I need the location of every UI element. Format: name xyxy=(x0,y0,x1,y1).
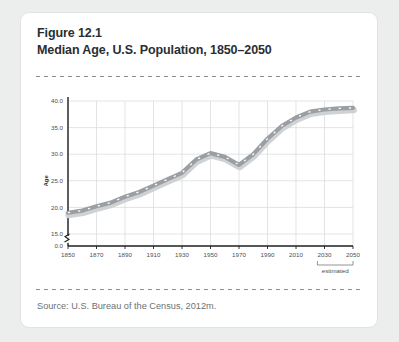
x-tick-label: 1970 xyxy=(232,251,246,258)
source-note: Source: U.S. Bureau of the Census, 2012m… xyxy=(37,301,216,311)
y-tick-label: 35.0 xyxy=(51,124,64,131)
figure-title: Median Age, U.S. Population, 1850–2050 xyxy=(37,42,363,59)
figure-card: Figure 12.1 Median Age, U.S. Population,… xyxy=(20,12,378,328)
y-tick-label: 30.0 xyxy=(51,150,64,157)
chart-area: 0.015.020.025.030.035.040.0Age1850187018… xyxy=(35,91,365,281)
y-tick-label: 15.0 xyxy=(51,230,64,237)
y-tick-label: 0.0 xyxy=(54,242,63,249)
x-tick-label: 2050 xyxy=(346,251,360,258)
x-tick-label: 2030 xyxy=(318,251,332,258)
x-tick-label: 1930 xyxy=(175,251,189,258)
x-tick-label: 1890 xyxy=(118,251,132,258)
divider-top xyxy=(36,76,363,77)
axis-break-icon xyxy=(65,234,70,242)
divider-bottom xyxy=(36,289,363,290)
x-tick-label: 1990 xyxy=(261,251,275,258)
x-tick-label: 2010 xyxy=(289,251,303,258)
estimated-bracket xyxy=(317,261,353,265)
x-tick-label: 1950 xyxy=(204,251,218,258)
y-tick-label: 40.0 xyxy=(51,97,64,104)
x-tick-label: 1870 xyxy=(90,251,104,258)
y-tick-label: 25.0 xyxy=(51,177,64,184)
y-tick-label: 20.0 xyxy=(51,204,64,211)
x-tick-label: 1910 xyxy=(147,251,161,258)
estimated-label: estimated xyxy=(322,267,349,274)
data-line-shadow xyxy=(69,110,354,215)
y-axis-title: Age xyxy=(43,174,49,186)
figure-title-block: Figure 12.1 Median Age, U.S. Population,… xyxy=(37,25,363,59)
figure-number: Figure 12.1 xyxy=(37,25,363,42)
x-tick-label: 1850 xyxy=(61,251,75,258)
line-chart: 0.015.020.025.030.035.040.0Age1850187018… xyxy=(35,91,365,281)
